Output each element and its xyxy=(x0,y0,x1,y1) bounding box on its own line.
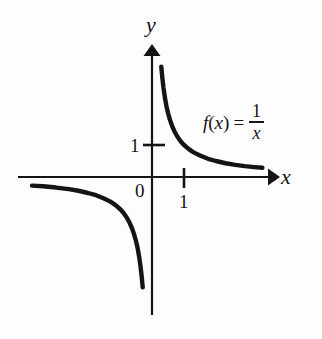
function-equation-label: f(x)=1x xyxy=(203,103,264,143)
graph-canvas xyxy=(0,0,322,339)
equals-sign: = xyxy=(233,113,244,132)
y-axis-arrowhead xyxy=(144,44,161,56)
curve-branch-quadrant-3 xyxy=(32,186,143,288)
function-graph-figure: y x 1 1 0 f(x)=1x xyxy=(0,0,322,339)
fraction-numerator: 1 xyxy=(249,102,264,121)
x-axis-label: x xyxy=(281,166,291,188)
origin-label: 0 xyxy=(135,181,145,200)
fraction-denominator: x xyxy=(250,123,264,142)
x-axis-arrowhead xyxy=(268,169,280,186)
y-axis-label: y xyxy=(146,14,156,36)
fraction-one-over-x: 1x xyxy=(249,102,264,142)
y-axis-tick-label-1: 1 xyxy=(130,136,140,155)
close-paren: ) xyxy=(223,113,229,132)
function-variable: x xyxy=(215,113,223,132)
x-axis-tick-label-1: 1 xyxy=(179,192,189,211)
